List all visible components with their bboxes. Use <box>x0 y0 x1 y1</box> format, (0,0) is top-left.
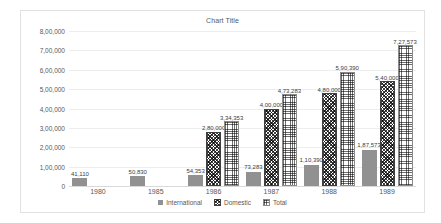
bar-value-label: 41,110 <box>71 171 89 177</box>
bar-domestic-1988[interactable]: 4,80,000 <box>322 93 337 186</box>
bar-international-1980[interactable]: 41,110 <box>72 178 87 186</box>
y-axis-tick: 4,00,000 <box>40 105 65 112</box>
legend-item-international[interactable]: International <box>158 199 202 206</box>
bar-value-label: 54,353 <box>186 168 204 174</box>
legend-swatch-icon <box>214 199 221 206</box>
legend-item-total[interactable]: Total <box>263 199 287 206</box>
bar-slot: 2,80,000 <box>206 31 221 186</box>
bar-international-1989[interactable]: 1,87,573 <box>362 150 377 186</box>
bar-slot: 1,87,573 <box>362 31 377 186</box>
y-axis-tick: 0 <box>61 183 65 190</box>
chart-legend: InternationalDomesticTotal <box>21 199 424 206</box>
legend-swatch-icon <box>263 199 270 206</box>
chart-title: Chart Title <box>21 17 424 24</box>
y-axis-tick: 7,00,000 <box>40 47 65 54</box>
bar-group-1980: 41,110 <box>69 31 127 186</box>
bar-slot: 1,10,390 <box>304 31 319 186</box>
y-axis-tick: 2,00,000 <box>40 144 65 151</box>
legend-label: Total <box>273 199 287 206</box>
bar-slot: 54,353 <box>188 31 203 186</box>
bar-value-label: 50,830 <box>129 169 147 175</box>
legend-swatch-icon <box>158 200 163 205</box>
bar-value-label: 7,27,573 <box>393 39 416 45</box>
legend-label: Domestic <box>224 199 251 206</box>
bar-value-label: 3,34,353 <box>220 115 243 121</box>
bar-value-label: 73,283 <box>244 164 262 170</box>
gridline <box>69 186 416 187</box>
bar-groups: 41,11050,83054,3532,80,0003,34,35373,283… <box>69 31 416 186</box>
bar-slot: 5,90,390 <box>340 31 355 186</box>
bar-domestic-1986[interactable]: 2,80,000 <box>206 132 221 186</box>
bar-value-label: 5,40,000 <box>375 75 398 81</box>
legend-label: International <box>166 199 202 206</box>
bar-domestic-1987[interactable]: 4,00,000 <box>264 109 279 187</box>
bar-slot <box>148 31 163 186</box>
legend-item-domestic[interactable]: Domestic <box>214 199 251 206</box>
bar-slot: 7,27,573 <box>398 31 413 186</box>
bar-value-label: 4,00,000 <box>260 102 283 108</box>
bar-total-1988[interactable]: 5,90,390 <box>340 72 355 186</box>
bar-slot: 4,80,000 <box>322 31 337 186</box>
bar-international-1986[interactable]: 54,353 <box>188 175 203 186</box>
bar-total-1986[interactable]: 3,34,353 <box>224 121 239 186</box>
bar-value-label: 2,80,000 <box>202 125 225 131</box>
bar-slot <box>90 31 105 186</box>
x-axis-tick-1989: 1989 <box>358 188 416 195</box>
chart-container: Chart Title 01,00,0002,00,0003,00,0004,0… <box>20 10 425 213</box>
bar-domestic-1989[interactable]: 5,40,000 <box>380 81 395 186</box>
bar-slot: 4,73,283 <box>282 31 297 186</box>
bar-international-1988[interactable]: 1,10,390 <box>304 165 319 186</box>
x-axis-tick-1986: 1986 <box>185 188 243 195</box>
bar-value-label: 1,87,573 <box>357 142 380 148</box>
bar-slot: 41,110 <box>72 31 87 186</box>
bar-international-1987[interactable]: 73,283 <box>246 172 261 186</box>
x-axis-tick-labels: 198019851986198719881989 <box>69 188 416 195</box>
y-axis-tick: 1,00,000 <box>40 163 65 170</box>
y-axis-tick: 8,00,000 <box>40 28 65 35</box>
bar-slot <box>108 31 123 186</box>
bar-value-label: 4,80,000 <box>318 87 341 93</box>
x-axis-tick-1980: 1980 <box>69 188 127 195</box>
bar-value-label: 5,90,390 <box>336 65 359 71</box>
bar-group-1987: 73,2834,00,0004,73,283 <box>242 31 300 186</box>
bar-slot: 5,40,000 <box>380 31 395 186</box>
bar-total-1987[interactable]: 4,73,283 <box>282 94 297 186</box>
bar-group-1989: 1,87,5735,40,0007,27,573 <box>358 31 416 186</box>
x-axis-tick-1985: 1985 <box>127 188 185 195</box>
bar-group-1985: 50,830 <box>127 31 185 186</box>
y-axis-tick: 3,00,000 <box>40 124 65 131</box>
bar-slot: 73,283 <box>246 31 261 186</box>
bar-value-label: 4,73,283 <box>278 88 301 94</box>
x-axis-tick-1988: 1988 <box>300 188 358 195</box>
bar-international-1985[interactable]: 50,830 <box>130 176 145 186</box>
bar-slot: 50,830 <box>130 31 145 186</box>
bar-group-1988: 1,10,3904,80,0005,90,390 <box>300 31 358 186</box>
y-axis-tick: 6,00,000 <box>40 66 65 73</box>
bar-slot: 4,00,000 <box>264 31 279 186</box>
bar-total-1989[interactable]: 7,27,573 <box>398 45 413 186</box>
plot-area: 01,00,0002,00,0003,00,0004,00,0005,00,00… <box>69 31 416 186</box>
bar-group-1986: 54,3532,80,0003,34,353 <box>185 31 243 186</box>
y-axis-tick: 5,00,000 <box>40 86 65 93</box>
bar-value-label: 1,10,390 <box>300 157 323 163</box>
bar-slot: 3,34,353 <box>224 31 239 186</box>
x-axis-tick-1987: 1987 <box>242 188 300 195</box>
bar-slot <box>166 31 181 186</box>
